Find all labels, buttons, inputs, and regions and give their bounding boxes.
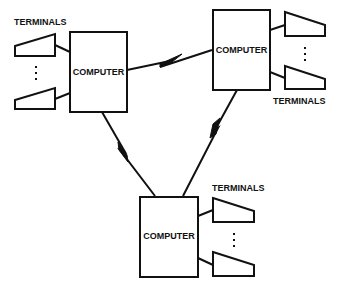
terminals-label-right: TERMINALS <box>273 96 326 106</box>
connector <box>270 25 285 30</box>
connector <box>55 45 70 52</box>
terminal-bottom-bottom <box>213 252 254 276</box>
terminal-right-bottom <box>285 66 325 89</box>
terminal-left-top <box>15 34 55 56</box>
computer-left-label: COMPUTER <box>73 67 125 77</box>
computer-bottom-label: COMPUTER <box>143 231 195 241</box>
terminal-left-bottom <box>15 88 55 109</box>
link-left-right <box>127 50 212 70</box>
connector <box>198 210 213 216</box>
terminal-right-top <box>285 12 325 36</box>
link-right-bottom <box>183 90 237 196</box>
link-left-bottom <box>102 112 155 196</box>
computer-right-label: COMPUTER <box>216 45 268 55</box>
connector <box>55 93 70 99</box>
network-diagram: COMPUTER COMPUTER COMPUTER TERMINALS TER… <box>0 0 337 294</box>
connector <box>198 258 213 265</box>
terminal-bottom-top <box>213 198 254 222</box>
connector <box>270 72 285 78</box>
terminals-label-left: TERMINALS <box>14 17 67 27</box>
terminals-label-bottom: TERMINALS <box>212 183 265 193</box>
